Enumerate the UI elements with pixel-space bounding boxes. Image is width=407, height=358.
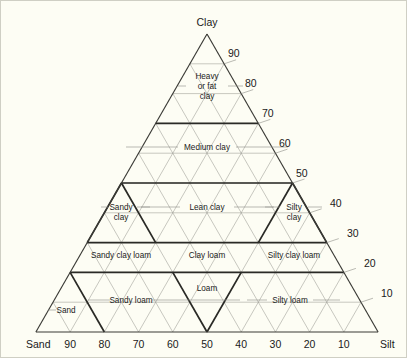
axis-label-sand: Sand xyxy=(26,338,51,350)
tick-leader-right-90 xyxy=(224,60,236,64)
gridline-silt-30 xyxy=(139,123,259,332)
tick-leader-right-20 xyxy=(344,268,356,272)
region-label-silty-clay-loam: Silty clay loam xyxy=(268,251,321,260)
region-label-silty-clay-line1: Silty xyxy=(286,203,302,212)
right-tick-90: 90 xyxy=(228,47,240,59)
bottom-tick-10: 10 xyxy=(338,338,350,350)
region-label-sandy-clay-line1: Sandy xyxy=(109,203,133,212)
tick-leader-right-30 xyxy=(327,239,339,243)
region-label-sandy-clay-loam: Sandy clay loam xyxy=(91,251,151,260)
bottom-tick-70: 70 xyxy=(133,338,145,350)
region-label-lean-clay: Lean clay xyxy=(189,203,225,212)
region-label-medium-clay: Medium clay xyxy=(184,143,231,152)
right-tick-70: 70 xyxy=(262,107,274,119)
region-label-silty-clay-line2: clay xyxy=(287,213,302,222)
gridline-sand-30 xyxy=(156,123,276,332)
region-label-clay-loam: Clay loam xyxy=(189,251,226,260)
tick-leader-right-70 xyxy=(258,119,270,123)
bottom-tick-90: 90 xyxy=(64,338,76,350)
right-tick-10: 10 xyxy=(381,287,393,299)
bottom-tick-60: 60 xyxy=(167,338,179,350)
region-label-loam: Loam xyxy=(197,284,218,293)
right-tick-30: 30 xyxy=(347,227,359,239)
tick-leader-right-50 xyxy=(293,179,305,183)
tick-leader-right-80 xyxy=(241,90,253,94)
bottom-tick-80: 80 xyxy=(99,338,111,350)
right-tick-50: 50 xyxy=(296,167,308,179)
soil-texture-triangle-chart: Clay Sand Silt 90 80 70 60 50 40 30 20 1… xyxy=(0,0,407,358)
region-label-silty-loam: Silty loam xyxy=(272,296,308,305)
gridline-silt-90 xyxy=(344,302,361,332)
bottom-tick-30: 30 xyxy=(270,338,282,350)
axis-label-clay: Clay xyxy=(196,16,218,28)
bottom-tick-50: 50 xyxy=(201,338,213,350)
region-label-sand: Sand xyxy=(56,306,76,315)
bottom-tick-20: 20 xyxy=(304,338,316,350)
bottom-tick-40: 40 xyxy=(235,338,247,350)
right-tick-60: 60 xyxy=(279,137,291,149)
axis-label-silt: Silt xyxy=(380,338,395,350)
right-tick-40: 40 xyxy=(330,197,342,209)
region-label-sandy-loam: Sandy loam xyxy=(109,296,152,305)
tick-leader-right-10 xyxy=(361,298,373,302)
region-label-heavy-clay-line1: Heavy xyxy=(195,72,219,81)
region-label-heavy-clay-line2: or fat xyxy=(198,82,217,91)
region-label-heavy-clay-line3: clay xyxy=(200,92,215,101)
tick-leader-right-60 xyxy=(275,149,287,153)
tick-leader-right-40 xyxy=(310,209,322,213)
right-tick-80: 80 xyxy=(245,77,257,89)
right-tick-20: 20 xyxy=(364,257,376,269)
region-label-sandy-clay-line2: clay xyxy=(114,213,129,222)
